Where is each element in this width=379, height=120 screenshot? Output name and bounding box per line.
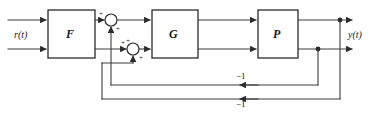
- gain-label-outer-feedback: −1: [236, 100, 246, 109]
- gain-label-inner-feedback: −1: [236, 72, 246, 81]
- diagram-svg: [0, 0, 379, 120]
- output-signal-label: y(t): [348, 30, 362, 40]
- sign-plus-sum-lower-top: +: [126, 38, 130, 45]
- block-diagram-canvas: F G P r(t) y(t) + + + + + −1 −1: [0, 0, 379, 120]
- sign-plus-sum-lower-input: +: [121, 40, 125, 47]
- block-label-G: G: [169, 28, 178, 40]
- sign-plus-sum-lower-feedback: +: [139, 55, 143, 62]
- tap-dot-outer-feedback: [338, 18, 343, 23]
- tap-dot-inner-feedback: [316, 47, 321, 52]
- sign-plus-sum-top-feedback: +: [116, 26, 120, 33]
- input-signal-label: r(t): [14, 30, 27, 40]
- block-label-F: F: [66, 28, 74, 40]
- block-label-P: P: [273, 28, 280, 40]
- sign-plus-sum-top-input: +: [99, 11, 103, 18]
